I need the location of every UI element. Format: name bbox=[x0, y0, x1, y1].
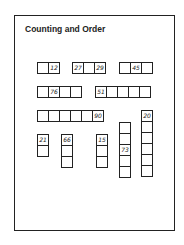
number-sequence-row2-a: 76 bbox=[37, 86, 82, 98]
number-sequence-col-15: 15 bbox=[96, 134, 108, 168]
number-cell[interactable] bbox=[70, 86, 82, 98]
number-cell[interactable]: 90 bbox=[92, 110, 104, 122]
number-cell[interactable] bbox=[96, 156, 108, 168]
number-cell[interactable]: 29 bbox=[94, 62, 106, 74]
number-cell[interactable]: 12 bbox=[48, 62, 60, 74]
number-cell[interactable] bbox=[141, 62, 153, 74]
number-cell[interactable] bbox=[119, 166, 131, 178]
number-sequence-row1-b: 27 29 bbox=[72, 62, 106, 74]
number-sequence-col-73: 73 bbox=[119, 122, 131, 178]
number-sequence-row1-c: 45 bbox=[119, 62, 153, 74]
number-sequence-col-21: 21 bbox=[37, 134, 49, 157]
number-sequence-col-20: 20 bbox=[141, 110, 153, 177]
number-sequence-row2-b: 51 bbox=[95, 86, 151, 98]
number-cell[interactable] bbox=[141, 165, 153, 177]
number-cell[interactable] bbox=[61, 156, 73, 168]
number-sequence-row3-a: 90 bbox=[37, 110, 104, 122]
number-cell[interactable] bbox=[139, 86, 151, 98]
worksheet-title: Counting and Order bbox=[25, 24, 105, 34]
number-cell[interactable] bbox=[37, 145, 49, 157]
number-sequence-col-66: 66 bbox=[61, 134, 73, 168]
number-sequence-row1-a: 12 bbox=[37, 62, 60, 74]
